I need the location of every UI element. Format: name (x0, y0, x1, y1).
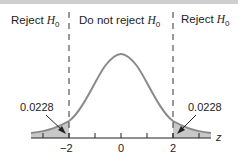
tick-label-2: 2 (170, 142, 176, 154)
right-tail-probability: 0.0228 (188, 101, 222, 113)
tick-label-neg2: −2 (60, 142, 73, 154)
normal-curve (31, 54, 211, 133)
z-axis-label: z (216, 131, 222, 143)
left-tail-probability: 0.0228 (20, 101, 54, 113)
normal-curve-diagram (0, 0, 238, 160)
tick-label-0: 0 (118, 142, 124, 154)
